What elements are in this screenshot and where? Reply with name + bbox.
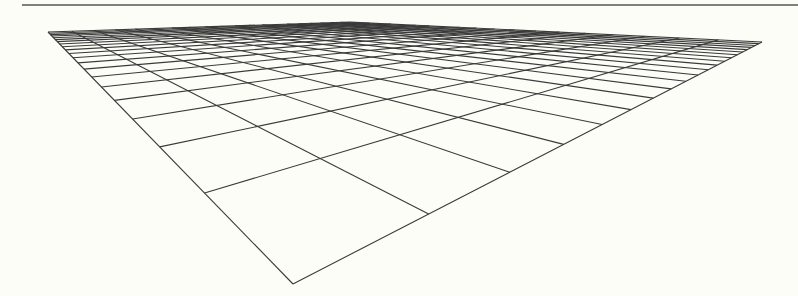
grid-line — [102, 33, 586, 87]
grid-plane — [48, 22, 762, 284]
grid-line — [72, 31, 429, 214]
grid-line — [293, 42, 762, 284]
perspective-grid-figure — [0, 0, 798, 296]
grid-line — [205, 40, 719, 193]
grid-line — [160, 38, 680, 147]
